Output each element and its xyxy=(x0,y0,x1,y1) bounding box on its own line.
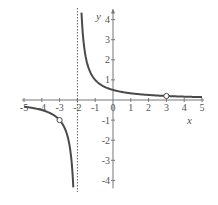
y-tick-label: -1 xyxy=(102,115,110,126)
x-tick-label: 1 xyxy=(128,102,133,113)
y-tick-label: 2 xyxy=(105,54,110,65)
y-axis-arrow-icon xyxy=(111,9,115,14)
tick-labels: -5-4-3-2-1012345-4-3-2-11234xy xyxy=(20,10,205,186)
x-tick-label: 5 xyxy=(200,102,205,113)
x-tick-label: 3 xyxy=(164,102,169,113)
y-tick-label: 4 xyxy=(105,14,110,25)
curve-branch xyxy=(24,107,73,188)
x-tick-label: 2 xyxy=(146,102,151,113)
x-tick-label: -3 xyxy=(55,102,63,113)
y-tick-label: -3 xyxy=(102,155,110,166)
x-tick-label: -1 xyxy=(91,102,99,113)
function-graph: -5-4-3-2-1012345-4-3-2-11234xy xyxy=(0,0,218,205)
x-tick-label: -2 xyxy=(73,102,81,113)
x-tick-label: -4 xyxy=(38,102,46,113)
x-tick-label: 4 xyxy=(182,102,187,113)
y-tick-label: -2 xyxy=(102,135,110,146)
x-tick-label: -5 xyxy=(20,102,28,113)
axes xyxy=(22,9,204,189)
y-tick-label: -4 xyxy=(102,175,110,186)
open-point xyxy=(164,93,169,98)
x-tick-label: 0 xyxy=(111,102,116,113)
y-tick-label: 1 xyxy=(105,74,110,85)
y-axis-label: y xyxy=(95,10,101,22)
open-point xyxy=(57,118,62,123)
y-tick-label: 3 xyxy=(105,34,110,45)
curve-branch xyxy=(81,13,202,98)
x-axis-label: x xyxy=(186,114,192,126)
